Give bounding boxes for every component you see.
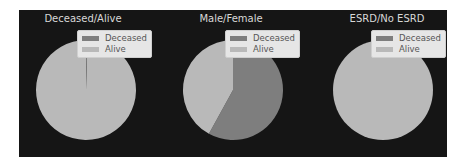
legend-item-deceased: Deceased <box>376 33 441 44</box>
legend-label: Deceased <box>399 33 441 44</box>
legend-label: Deceased <box>253 33 295 44</box>
legend-swatch-alive <box>82 47 99 52</box>
legend-item-alive: Alive <box>376 44 441 55</box>
legend-swatch-alive <box>376 47 393 52</box>
legend-label: Alive <box>105 44 126 55</box>
pie-panel-esrd: ESRD/No ESRD Deceased Alive <box>317 10 466 157</box>
legend-swatch-deceased <box>376 36 393 41</box>
legend-label: Alive <box>253 44 274 55</box>
legend-item-deceased: Deceased <box>82 33 147 44</box>
legend-item-alive: Alive <box>82 44 147 55</box>
legend-swatch-alive <box>230 47 247 52</box>
pie-panel-male-female: Male/Female Deceased Alive <box>169 10 319 157</box>
legend: Deceased Alive <box>225 30 300 58</box>
legend-label: Deceased <box>105 33 147 44</box>
figure-background: Deceased/Alive Deceased Alive Male/Femal… <box>19 10 447 157</box>
legend-swatch-deceased <box>82 36 99 41</box>
legend: Deceased Alive <box>371 30 446 58</box>
pie-panel-deceased-alive: Deceased/Alive Deceased Alive <box>19 10 169 157</box>
chart-title: Male/Female <box>156 13 306 25</box>
legend-label: Alive <box>399 44 420 55</box>
legend-swatch-deceased <box>230 36 247 41</box>
legend-item-alive: Alive <box>230 44 295 55</box>
legend: Deceased Alive <box>77 30 152 58</box>
legend-item-deceased: Deceased <box>230 33 295 44</box>
chart-title: Deceased/Alive <box>8 13 158 25</box>
chart-title: ESRD/No ESRD <box>312 13 462 25</box>
